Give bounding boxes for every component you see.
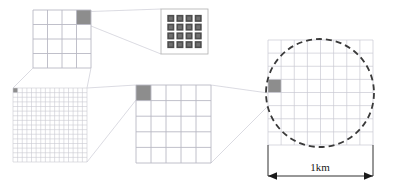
- highlighted-cell: [136, 85, 151, 101]
- circlegrid-cell-to-midgrid-upper: [211, 85, 268, 93]
- dot-square-inner: [187, 16, 191, 20]
- midgrid-cell-to-finegrid-upper: [87, 85, 136, 88]
- circle-grid-panel-right: [266, 39, 374, 147]
- dimension-annotation-group: 1km: [268, 145, 373, 180]
- dashed-circle-boundary: [266, 39, 374, 147]
- diagram-canvas: 1km: [0, 0, 404, 183]
- finegrid-cell-to-topleft-upper: [13, 68, 33, 88]
- dot-square-inner: [178, 25, 182, 29]
- dimension-label-1km: 1km: [310, 161, 330, 173]
- dot-square-inner: [169, 43, 173, 47]
- dot-square-inner: [196, 16, 200, 20]
- highlighted-cell: [77, 10, 92, 25]
- dot-square-inner: [178, 16, 182, 20]
- dot-square-inner: [178, 43, 182, 47]
- dot-square-inner: [169, 16, 173, 20]
- mid-grid-panel-center: [136, 85, 211, 163]
- dot-square-inner: [187, 34, 191, 38]
- dot-square-inner: [169, 34, 173, 38]
- dot-square-inner: [187, 43, 191, 47]
- dot-square-inner: [196, 25, 200, 29]
- dot-square-inner: [169, 25, 173, 29]
- highlighted-cell: [268, 79, 281, 92]
- midgrid-cell-to-finegrid-lower: [87, 100, 136, 162]
- dot-square-inner: [178, 34, 182, 38]
- dot-square-inner: [196, 43, 200, 47]
- topleft-cell-to-dotarray-lower: [91, 26, 161, 54]
- dimension-arrow-right: [364, 172, 373, 180]
- dot-square-inner: [196, 34, 200, 38]
- dot-array-panel-top-right: [161, 9, 208, 54]
- circlegrid-cell-to-midgrid-lower: [211, 106, 268, 163]
- fine-grid-panel-bottom-left: [13, 88, 87, 162]
- highlighted-cell: [13, 88, 18, 93]
- zoom-hierarchy-diagram: 1km: [0, 0, 404, 183]
- coarse-grid-panel-top-left: [33, 10, 91, 68]
- dot-square-inner: [187, 25, 191, 29]
- dimension-arrow-left: [268, 172, 277, 180]
- finegrid-cell-to-topleft-lower: [87, 68, 91, 88]
